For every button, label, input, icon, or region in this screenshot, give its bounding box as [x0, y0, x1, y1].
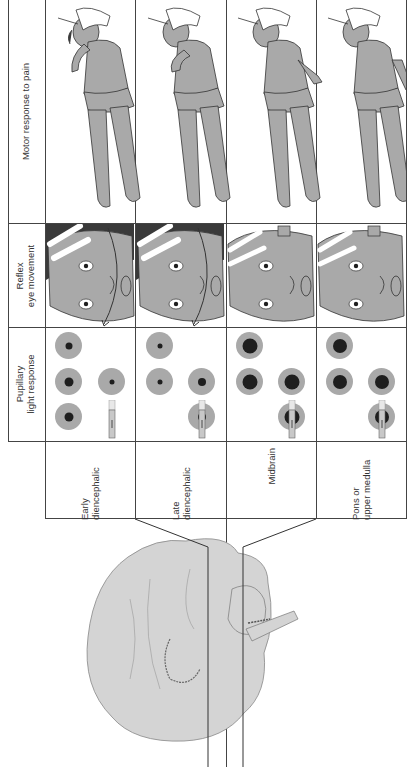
pupil-icon	[146, 332, 173, 359]
pupil-icon	[55, 368, 82, 395]
row-label-late-diencephalic: Late diencephalic	[170, 440, 192, 520]
grid-line	[8, 441, 406, 442]
penlight-icon	[287, 400, 297, 440]
penlight-icon	[197, 400, 207, 440]
header-label-line1: Pupillary	[14, 329, 25, 439]
figure-pons-upper-medulla	[328, 8, 406, 207]
reflex-eye-movement-illustrations	[46, 224, 406, 327]
figure-late-diencephalic	[148, 8, 230, 207]
header-pupillary-light-response: Pupillary light response	[14, 329, 36, 439]
header-label-line2: light response	[25, 329, 36, 439]
grid-line	[8, 0, 9, 441]
figure-early-diencephalic	[58, 8, 140, 207]
header-label-line2: eye movement	[25, 228, 36, 324]
row-label-line2: diencephalic	[90, 440, 101, 520]
eye-movement-early-diencephalic	[46, 224, 134, 326]
pupil-icon	[55, 403, 82, 430]
header-label-line1: Reflex	[14, 228, 25, 324]
eye-movement-midbrain	[228, 226, 314, 321]
header-reflex-eye-movement: Reflex eye movement	[14, 228, 36, 324]
header-motor-response: Motor response to pain	[20, 22, 31, 202]
grid-line	[406, 0, 407, 519]
eye-movement-pons-upper-medulla	[318, 226, 404, 321]
row-label-line2: upper medulla	[361, 440, 372, 520]
penlight-icon	[107, 400, 117, 440]
pupil-icon	[146, 368, 173, 395]
penlight-icon	[377, 400, 387, 440]
pupil-icon	[326, 368, 353, 395]
pupil-icon	[368, 368, 395, 395]
row-label-midbrain: Midbrain	[266, 435, 277, 515]
pupil-icon	[98, 368, 125, 395]
pupil-icon	[236, 368, 263, 395]
row-label-line1: Early	[79, 440, 90, 520]
figure-midbrain	[238, 8, 322, 207]
pupil-icon	[278, 368, 305, 395]
header-label: Motor response to pain	[20, 63, 31, 160]
pupil-icon	[236, 332, 263, 359]
row-label-line2: diencephalic	[181, 440, 192, 520]
grid-line	[8, 327, 406, 328]
pupil-icon	[326, 332, 353, 359]
row-label-pons-upper-medulla: Pons or upper medulla	[350, 440, 372, 520]
brain-sagittal-illustration	[0, 519, 419, 767]
row-label-early-diencephalic: Early diencephalic	[79, 440, 101, 520]
row-label-line1: Pons or	[350, 440, 361, 520]
motor-response-illustrations	[46, 0, 406, 223]
pupil-icon	[188, 368, 215, 395]
row-label-line1: Midbrain	[266, 435, 277, 485]
pupil-icon	[55, 332, 82, 359]
eye-movement-late-diencephalic	[136, 224, 224, 326]
row-label-line1: Late	[170, 440, 181, 520]
